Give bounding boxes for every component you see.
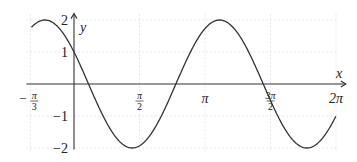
y-axis-label: y: [78, 20, 87, 35]
y-tick-label: 2: [61, 13, 68, 28]
y-tick-label: −2: [53, 141, 68, 156]
x-tick-denominator: 2: [268, 101, 273, 112]
grid-lines: [26, 14, 338, 152]
x-tick-numerator: 3π: [264, 90, 276, 101]
x-axis-label: x: [335, 66, 343, 81]
x-tick-numerator: π: [137, 90, 143, 101]
axes: [26, 14, 346, 150]
x-tick-denominator: 3: [32, 101, 37, 112]
y-tick-label: −1: [53, 109, 68, 124]
function-plot: yx21−1−2−π3π2π3π22π: [0, 0, 357, 162]
x-tick-label: 2π: [329, 91, 344, 106]
x-tick-numerator: π: [32, 90, 38, 101]
x-tick-denominator: 2: [137, 101, 142, 112]
x-tick-label: π: [201, 91, 209, 106]
x-tick-sign: −: [19, 91, 26, 106]
y-tick-label: 1: [61, 45, 68, 60]
